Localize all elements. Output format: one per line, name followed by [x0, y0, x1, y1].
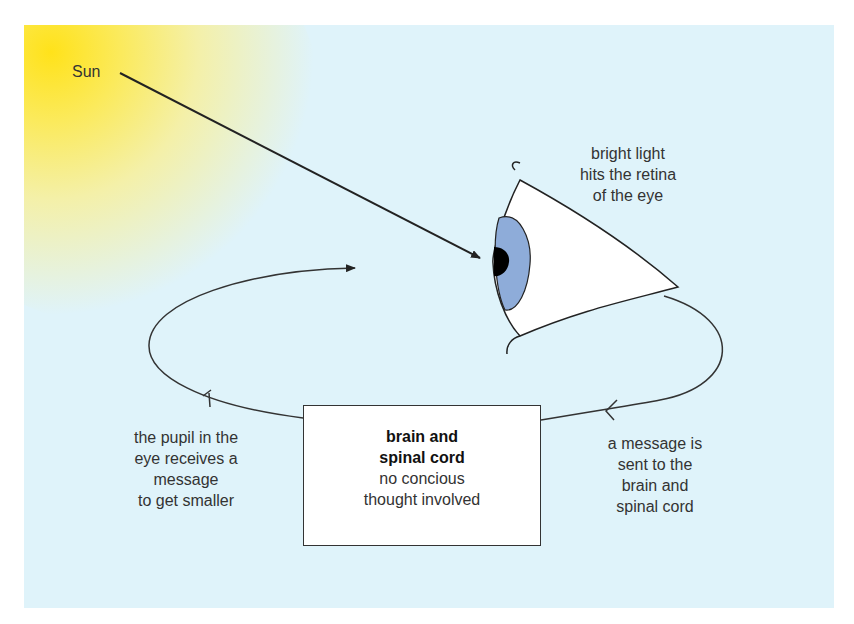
- brain-box-title-line: spinal cord: [304, 447, 540, 468]
- message-label: a message is sent to the brain and spina…: [570, 433, 740, 517]
- retina-label-line: bright light: [548, 143, 708, 164]
- message-label-line: a message is: [570, 433, 740, 454]
- pupil-label-line: message: [100, 469, 272, 490]
- message-label-line: brain and: [570, 475, 740, 496]
- brain-box-title-line: brain and: [304, 426, 540, 447]
- brain-spinal-cord-box: brain and spinal cord no concious though…: [303, 405, 541, 546]
- loop-left-arc: [149, 268, 355, 418]
- light-ray-arrow: [120, 73, 480, 258]
- message-label-line: spinal cord: [570, 496, 740, 517]
- brain-box-subtitle-line: no concious: [304, 468, 540, 489]
- pupil-label-line: to get smaller: [100, 490, 272, 511]
- retina-label: bright light hits the retina of the eye: [548, 143, 708, 206]
- brain-box-subtitle-line: thought involved: [304, 489, 540, 510]
- message-label-line: sent to the: [570, 454, 740, 475]
- retina-label-line: hits the retina: [548, 164, 708, 185]
- pupil-label-line: eye receives a: [100, 448, 272, 469]
- sun-label: Sun: [72, 61, 100, 82]
- retina-label-line: of the eye: [548, 185, 708, 206]
- pupil-label-line: the pupil in the: [100, 427, 272, 448]
- loop-arrow-left: [203, 390, 211, 407]
- pupil-label: the pupil in the eye receives a message …: [100, 427, 272, 511]
- loop-arrow-right: [606, 400, 617, 420]
